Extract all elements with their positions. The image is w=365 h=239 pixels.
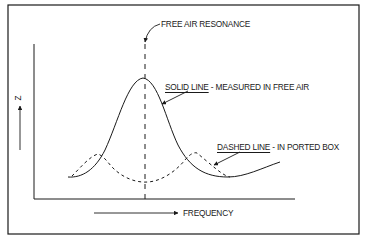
resonance-label: FREE AIR RESONANCE [161, 20, 250, 28]
frequency-label: FREQUENCY [183, 209, 233, 217]
solid-line-key-desc: - MEASURED IN FREE AIR [209, 82, 310, 92]
resonance-leader-arrow [145, 24, 160, 42]
solid-key-leader [162, 91, 188, 104]
dashed-line-key-desc: - IN PORTED BOX [270, 142, 339, 152]
solid-line-key-title: SOLID LINE [165, 82, 209, 92]
dashed-curve-ported-box [72, 153, 230, 182]
diagram-frame [8, 5, 359, 234]
dashed-line-key: DASHED LINE - IN PORTED BOX [217, 143, 339, 151]
solid-curve-free-air [68, 78, 280, 177]
solid-line-key: SOLID LINE - MEASURED IN FREE AIR [165, 83, 309, 91]
dashed-key-leader [214, 152, 240, 165]
dashed-line-key-title: DASHED LINE [217, 142, 270, 152]
z-axis-label: Z [14, 96, 22, 101]
impedance-diagram [0, 0, 365, 239]
